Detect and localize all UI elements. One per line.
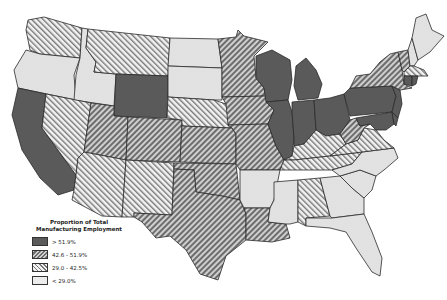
state-ct [404, 76, 412, 86]
legend-label: 42.6 - 51.9% [52, 252, 87, 258]
legend-item-high: > 51.9% [32, 237, 132, 246]
state-ks [180, 126, 236, 164]
state-fl [306, 214, 382, 276]
state-az [72, 152, 126, 217]
swatch-back-hatch [32, 263, 48, 272]
state-nd [168, 38, 222, 68]
state-mt [86, 29, 170, 76]
swatch-dotted [32, 276, 48, 285]
state-mi [294, 58, 322, 100]
legend: Proportion of Total Manufacturing Employ… [22, 219, 132, 285]
legend-title-line1: Proportion of Total [26, 219, 132, 226]
state-nm [122, 160, 174, 217]
legend-item-upper-mid: 42.6 - 51.9% [32, 250, 132, 259]
legend-label: 29.0 - 42.5% [52, 265, 87, 271]
swatch-solid-dark [32, 237, 48, 246]
state-wy [114, 74, 168, 118]
legend-label: > 51.9% [52, 239, 76, 245]
legend-label: < 29.0% [52, 278, 76, 284]
state-pa [344, 86, 396, 116]
state-ri [412, 76, 418, 86]
state-sd [168, 66, 222, 100]
legend-title-line2: Manufacturing Employment [26, 226, 132, 233]
state-wa [26, 17, 82, 58]
state-me [412, 14, 444, 60]
legend-item-lower-mid: 29.0 - 42.5% [32, 263, 132, 272]
state-co [126, 117, 182, 162]
swatch-forward-hatch [32, 250, 48, 259]
legend-item-low: < 29.0% [32, 276, 132, 285]
